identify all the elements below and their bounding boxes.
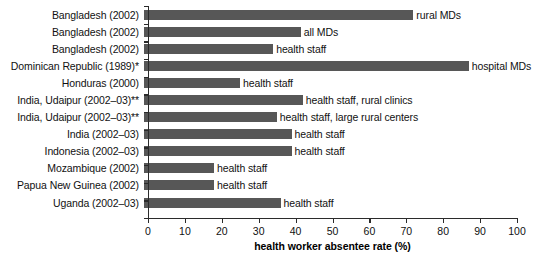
bar-value-label: health staff bbox=[284, 197, 334, 209]
category-label: Honduras (2000) bbox=[0, 77, 144, 89]
x-axis-tick bbox=[185, 218, 186, 223]
x-axis-tick-label: 10 bbox=[179, 225, 191, 237]
bar-zone: health staff bbox=[144, 126, 543, 143]
bar-row: Honduras (2000)health staff bbox=[0, 74, 543, 91]
category-label: Dominican Republic (1989)* bbox=[0, 60, 144, 72]
x-axis-tick-label: 70 bbox=[400, 225, 412, 237]
bar bbox=[144, 27, 301, 37]
bar-row: Bangladesh (2002)health staff bbox=[0, 40, 543, 57]
y-axis-spine bbox=[148, 6, 149, 218]
bar-row: Uganda (2002–03)health staff bbox=[0, 194, 543, 211]
category-label: Indonesia (2002–03) bbox=[0, 145, 144, 157]
bar-row: Indonesia (2002–03)health staff bbox=[0, 143, 543, 160]
bar-value-label: health staff bbox=[217, 179, 267, 191]
bar-zone: health staff, large rural centers bbox=[144, 109, 543, 126]
x-axis-tick bbox=[333, 218, 334, 223]
y-axis-tick bbox=[144, 24, 148, 25]
x-axis-tick-label: 50 bbox=[327, 225, 339, 237]
x-axis-tick bbox=[296, 218, 297, 223]
x-axis-tick bbox=[406, 218, 407, 223]
category-label: India (2002–03) bbox=[0, 128, 144, 140]
bar-row: Bangladesh (2002)rural MDs bbox=[0, 6, 543, 23]
bar bbox=[144, 163, 214, 173]
bar-row: India, Udaipur (2002–03)**health staff, … bbox=[0, 91, 543, 108]
x-axis-tick bbox=[259, 218, 260, 223]
bar-value-label: rural MDs bbox=[416, 9, 461, 21]
bar-zone: health staff, rural clinics bbox=[144, 91, 543, 108]
x-axis-tick-label: 100 bbox=[508, 225, 526, 237]
bar-zone: health staff bbox=[144, 74, 543, 91]
x-axis-tick-label: 90 bbox=[474, 225, 486, 237]
bar bbox=[144, 180, 214, 190]
bar-value-label: hospital MDs bbox=[472, 60, 532, 72]
bar-value-label: health staff bbox=[243, 77, 293, 89]
x-axis-tick-label: 30 bbox=[253, 225, 265, 237]
x-axis-spine: 0102030405060708090100 bbox=[148, 218, 517, 219]
y-axis-tick bbox=[144, 147, 148, 148]
bar-row: India (2002–03)health staff bbox=[0, 126, 543, 143]
bar-value-label: health staff, large rural centers bbox=[280, 111, 418, 123]
bar-value-label: health staff bbox=[276, 43, 326, 55]
bar-zone: health staff bbox=[144, 177, 543, 194]
bar bbox=[144, 198, 281, 208]
y-axis-tick bbox=[144, 41, 148, 42]
category-label: Uganda (2002–03) bbox=[0, 197, 144, 209]
x-axis-tick-label: 0 bbox=[145, 225, 151, 237]
bar-value-label: all MDs bbox=[304, 26, 338, 38]
bar-row: Papua New Guinea (2002)health staff bbox=[0, 177, 543, 194]
x-axis-tick-label: 40 bbox=[290, 225, 302, 237]
category-label: Bangladesh (2002) bbox=[0, 43, 144, 55]
y-axis-tick bbox=[144, 130, 148, 131]
category-label: India, Udaipur (2002–03)** bbox=[0, 94, 144, 106]
bar-zone: all MDs bbox=[144, 23, 543, 40]
y-axis-tick bbox=[144, 183, 148, 184]
x-axis-tick bbox=[222, 218, 223, 223]
bar bbox=[144, 10, 413, 20]
y-axis-tick bbox=[144, 59, 148, 60]
bar-row: Mozambique (2002)health staff bbox=[0, 160, 543, 177]
y-axis-tick bbox=[144, 77, 148, 78]
bar-row: Dominican Republic (1989)*hospital MDs bbox=[0, 57, 543, 74]
x-axis-tick-label: 20 bbox=[216, 225, 228, 237]
bar-row: India, Udaipur (2002–03)**health staff, … bbox=[0, 109, 543, 126]
category-label: Bangladesh (2002) bbox=[0, 9, 144, 21]
y-axis-tick bbox=[144, 6, 148, 7]
bar-row: Bangladesh (2002)all MDs bbox=[0, 23, 543, 40]
bar-zone: hospital MDs bbox=[144, 57, 543, 74]
bar bbox=[144, 44, 273, 54]
y-axis-tick bbox=[144, 94, 148, 95]
x-axis-tick bbox=[443, 218, 444, 223]
bar bbox=[144, 61, 469, 71]
absentee-rate-bar-chart: Bangladesh (2002)rural MDsBangladesh (20… bbox=[0, 0, 543, 258]
bar-value-label: health staff bbox=[295, 145, 345, 157]
bar-zone: rural MDs bbox=[144, 6, 543, 23]
bar-value-label: health staff bbox=[217, 162, 267, 174]
bar-zone: health staff bbox=[144, 160, 543, 177]
y-axis-tick bbox=[144, 165, 148, 166]
x-axis-tick-label: 60 bbox=[364, 225, 376, 237]
bar-zone: health staff bbox=[144, 194, 543, 211]
y-axis-tick bbox=[144, 112, 148, 113]
x-axis-tick bbox=[517, 218, 518, 223]
plot-area: Bangladesh (2002)rural MDsBangladesh (20… bbox=[0, 6, 543, 218]
bar-zone: health staff bbox=[144, 40, 543, 57]
category-label: Papua New Guinea (2002) bbox=[0, 179, 144, 191]
bar bbox=[144, 146, 292, 156]
bar-zone: health staff bbox=[144, 143, 543, 160]
y-axis-tick bbox=[144, 200, 148, 201]
bar bbox=[144, 95, 303, 105]
category-label: Bangladesh (2002) bbox=[0, 26, 144, 38]
x-axis-title: health worker absentee rate (%) bbox=[148, 240, 517, 252]
category-label: India, Udaipur (2002–03)** bbox=[0, 111, 144, 123]
bar bbox=[144, 129, 292, 139]
category-label: Mozambique (2002) bbox=[0, 162, 144, 174]
x-axis-tick bbox=[369, 218, 370, 223]
bar-value-label: health staff bbox=[295, 128, 345, 140]
bar bbox=[144, 78, 240, 88]
bar bbox=[144, 112, 277, 122]
bar-value-label: health staff, rural clinics bbox=[306, 94, 413, 106]
x-axis-tick bbox=[480, 218, 481, 223]
x-axis-tick bbox=[148, 218, 149, 223]
x-axis-tick-label: 80 bbox=[437, 225, 449, 237]
